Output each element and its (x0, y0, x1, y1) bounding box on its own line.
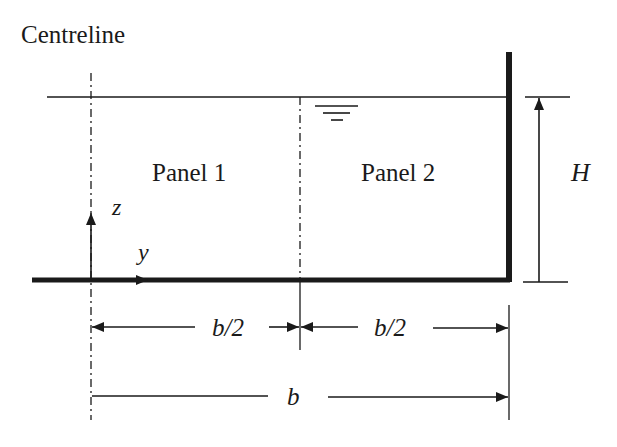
half-width-right-label: b/2 (374, 315, 406, 340)
channel-cross-section-diagram (0, 0, 617, 447)
half-width-left-label: b/2 (212, 315, 244, 340)
free-surface-icon (315, 106, 358, 120)
y-axis-label: y (138, 240, 149, 264)
full-width-label: b (287, 384, 300, 409)
centreline-label: Centreline (21, 22, 125, 47)
height-label: H (571, 160, 590, 186)
height-dimension (523, 97, 570, 282)
panel-1-label: Panel 1 (152, 160, 226, 185)
z-axis-label: z (112, 195, 121, 219)
panel-2-label: Panel 2 (361, 160, 435, 185)
